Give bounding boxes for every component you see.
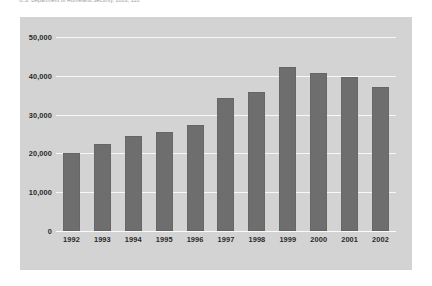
x-tick-label: 2002 [365,235,396,244]
x-tick-label: 1997 [211,235,242,244]
bar-slot [365,37,396,231]
x-tick-label: 1998 [241,235,272,244]
y-tick-label: 20,000 [29,149,52,158]
x-tick-label: 1992 [56,235,87,244]
y-tick-label: 10,000 [29,188,52,197]
bar-series [56,37,396,231]
y-tick-label: 30,000 [29,110,52,119]
bar-slot [180,37,211,231]
y-tick-label: 50,000 [29,33,52,42]
bar-slot [56,37,87,231]
x-tick-label: 1995 [149,235,180,244]
bar [217,98,234,231]
bar [187,125,204,231]
source-caption: U.S. Department of Homeland Security, 20… [19,0,140,3]
bar-slot [118,37,149,231]
bar-slot [334,37,365,231]
bar-slot [272,37,303,231]
x-tick-label: 1999 [272,235,303,244]
x-tick-label: 2001 [334,235,365,244]
bar [372,87,389,231]
x-axis-tick-labels: 1992199319941995199619971998199920002001… [56,235,396,244]
gridline-0 [56,231,396,232]
y-tick-label: 0 [48,227,52,236]
bar [279,67,296,231]
bar [310,73,327,231]
x-tick-label: 1993 [87,235,118,244]
bar [156,132,173,231]
bar [63,153,80,231]
bar-slot [303,37,334,231]
bar [248,92,265,231]
bar [94,144,111,231]
bar [341,77,358,231]
y-tick-label: 40,000 [29,71,52,80]
bar-slot [241,37,272,231]
x-tick-label: 2000 [303,235,334,244]
y-axis-tick-labels: 010,00020,00030,00040,00050,000 [20,37,52,231]
bar-slot [87,37,118,231]
bar-slot [149,37,180,231]
chart-panel: 010,00020,00030,00040,00050,000 19921993… [20,17,412,270]
x-tick-label: 1994 [118,235,149,244]
bar [125,136,142,231]
x-tick-label: 1996 [180,235,211,244]
bar-slot [211,37,242,231]
